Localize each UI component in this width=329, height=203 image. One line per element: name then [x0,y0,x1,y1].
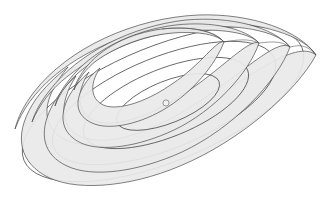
spiral-diagram-canvas: Spiral ribbon orbit diagram A continuous… [0,0,329,203]
spiral-ribbon-svg [0,0,329,203]
center-point-marker [163,100,169,106]
